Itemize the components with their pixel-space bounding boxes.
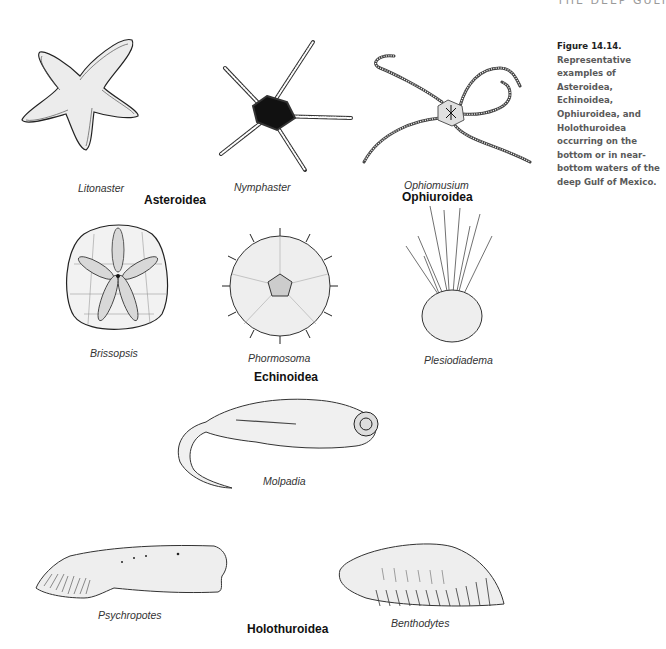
- caption-text: Representative examples of Asteroidea, E…: [557, 55, 660, 187]
- figure-label: Figure 14.14.: [557, 40, 666, 54]
- species-label-brissopsis: Brissopsis: [90, 347, 138, 359]
- group-label-holothuroidea: Holothuroidea: [247, 622, 328, 636]
- psychropotes-illustration: [34, 542, 230, 602]
- ophiomusium-illustration: [360, 50, 550, 170]
- species-label-psychropotes: Psychropotes: [98, 609, 162, 621]
- species-label-benthodytes: Benthodytes: [391, 617, 449, 629]
- running-head: THE DEEP GULF: [557, 0, 666, 7]
- group-label-asteroidea: Asteroidea: [144, 193, 206, 207]
- species-label-nymphaster: Nymphaster: [234, 181, 291, 193]
- species-label-litonaster: Litonaster: [78, 182, 124, 194]
- group-label-echinoidea: Echinoidea: [254, 370, 318, 384]
- species-label-plesiodiadema: Plesiodiadema: [424, 354, 493, 366]
- brissopsis-illustration: [64, 224, 172, 336]
- figure-caption: Figure 14.14. Representative examples of…: [557, 40, 666, 190]
- species-label-molpadia: Molpadia: [263, 475, 306, 487]
- nymphaster-illustration: [205, 36, 355, 176]
- phormosoma-illustration: [220, 226, 340, 346]
- species-label-phormosoma: Phormosoma: [248, 352, 310, 364]
- litonaster-illustration: [20, 36, 140, 154]
- plesiodiadema-illustration: [400, 206, 500, 346]
- benthodytes-illustration: [336, 540, 504, 612]
- group-label-ophiuroidea: Ophiuroidea: [402, 190, 473, 204]
